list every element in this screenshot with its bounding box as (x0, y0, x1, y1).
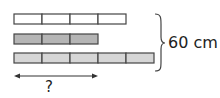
bar-segment (126, 53, 154, 63)
bar-bottom (14, 53, 154, 63)
bars-group (14, 14, 154, 63)
bar-segment (70, 14, 98, 24)
curly-brace (155, 14, 165, 71)
bar-top (14, 14, 126, 24)
bar-middle (14, 34, 98, 44)
bar-segment (98, 53, 126, 63)
bar-segment (98, 14, 126, 24)
bar-segment (70, 34, 98, 44)
bar-segment (70, 53, 98, 63)
bar-segment (42, 34, 70, 44)
bar-segment (14, 14, 42, 24)
total-length-label: 60 cm (168, 35, 218, 51)
bar-segment (42, 53, 70, 63)
bar-segment (42, 14, 70, 24)
unknown-length-label: ? (45, 80, 53, 95)
bar-segment (14, 34, 42, 44)
double-arrow (14, 74, 98, 79)
bar-segment (14, 53, 42, 63)
